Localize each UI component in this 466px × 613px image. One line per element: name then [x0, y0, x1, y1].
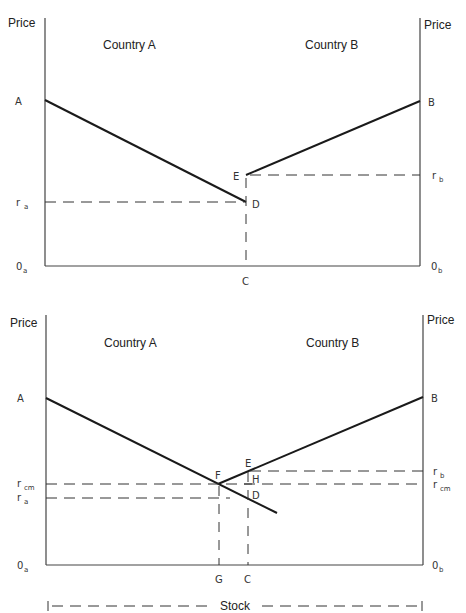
svg-text:a: a	[23, 267, 27, 275]
left-axis-label: Price	[8, 16, 36, 30]
rcm-right-label: r cm	[433, 479, 451, 493]
point-a-label: A	[15, 96, 22, 107]
panel-after: Price Price Country A Country B A B E F …	[10, 313, 455, 613]
origin-a-label: 0 a	[17, 560, 28, 574]
svg-text:cm: cm	[24, 484, 35, 492]
svg-text:r: r	[17, 478, 22, 489]
point-e-label: E	[245, 458, 251, 469]
svg-text:a: a	[24, 203, 28, 211]
point-d-label: D	[252, 199, 260, 210]
country-a-curve	[45, 100, 246, 202]
country-a-label: Country A	[103, 38, 156, 52]
svg-text:0: 0	[17, 560, 23, 571]
panel-before: Price Price Country A Country B A B E D …	[8, 16, 452, 287]
point-g-label: G	[215, 574, 223, 585]
svg-text:r: r	[433, 479, 438, 490]
origin-a-label: 0 a	[16, 261, 27, 275]
point-c-label: C	[244, 574, 251, 585]
point-b-label: B	[431, 393, 438, 404]
right-axis-label: Price	[424, 18, 452, 32]
svg-text:r: r	[433, 466, 438, 477]
svg-text:b: b	[439, 566, 444, 574]
point-d-label: D	[252, 490, 260, 501]
svg-text:r: r	[17, 492, 22, 503]
origin-b-label: 0 b	[431, 261, 443, 275]
country-b-curve	[246, 101, 420, 175]
origin-b-label: 0 b	[432, 560, 444, 574]
ra-label: r a	[16, 197, 28, 211]
svg-text:a: a	[24, 498, 28, 506]
country-a-curve	[46, 398, 277, 513]
left-axis-label: Price	[10, 316, 38, 330]
rcm-left-label: r cm	[17, 478, 35, 492]
svg-text:r: r	[16, 197, 21, 208]
country-b-label: Country B	[306, 336, 359, 350]
svg-text:cm: cm	[440, 485, 451, 493]
svg-text:b: b	[440, 472, 445, 480]
country-b-curve	[218, 397, 423, 484]
svg-text:0: 0	[16, 261, 22, 272]
svg-text:0: 0	[431, 261, 437, 272]
point-a-label: A	[17, 393, 24, 404]
stock-label: Stock	[220, 599, 251, 613]
stock-span: Stock	[48, 599, 422, 613]
point-b-label: B	[428, 97, 435, 108]
svg-text:a: a	[24, 566, 28, 574]
svg-text:b: b	[439, 176, 444, 184]
svg-text:b: b	[438, 267, 443, 275]
point-f-label: F	[215, 470, 221, 481]
svg-text:0: 0	[432, 560, 438, 571]
point-e-label: E	[233, 171, 239, 182]
rb-label: r b	[433, 466, 445, 480]
ra-label: r a	[17, 492, 28, 506]
rb-label: r b	[432, 170, 444, 184]
svg-text:r: r	[432, 170, 437, 181]
point-h-label: H	[252, 474, 260, 485]
country-a-label: Country A	[104, 336, 157, 350]
right-axis-label: Price	[427, 313, 455, 327]
country-b-label: Country B	[305, 38, 358, 52]
capital-allocation-diagram: Price Price Country A Country B A B E D …	[0, 0, 466, 613]
point-c-label: C	[242, 276, 249, 287]
